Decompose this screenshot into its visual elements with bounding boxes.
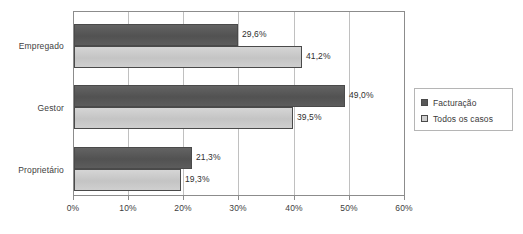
data-label-proprietario-todos-os-casos: 19,3% (185, 174, 210, 184)
data-label-proprietario-facturacao: 21,3% (196, 152, 221, 162)
x-axis-label-30: 30% (229, 203, 246, 213)
x-axis-label-50: 50% (340, 203, 357, 213)
legend-label-facturacao: Facturação (433, 98, 477, 108)
x-axis-label-0: 0% (67, 203, 80, 213)
data-label-empregado-facturacao: 29,6% (242, 29, 267, 39)
legend-item-todos-os-casos: Todos os casos (421, 111, 512, 126)
y-axis-label-empregado: Empregado (0, 41, 64, 51)
legend: Facturação Todos os casos (414, 88, 513, 131)
bar-gestor-todos-os-casos (74, 107, 293, 129)
x-axis-tick-50 (349, 196, 350, 200)
x-axis-tick-60 (404, 196, 405, 200)
data-label-gestor-facturacao: 49,0% (349, 90, 374, 100)
x-axis-label-40: 40% (285, 203, 302, 213)
x-axis-tick-40 (294, 196, 295, 200)
x-axis-tick-0 (73, 196, 74, 200)
bar-empregado-facturacao (74, 24, 238, 46)
x-axis-label-20: 20% (174, 203, 191, 213)
x-axis-tick-30 (238, 196, 239, 200)
bar-gestor-facturacao (74, 85, 345, 107)
data-label-gestor-todos-os-casos: 39,5% (297, 112, 322, 122)
y-axis-category-labels: Empregado Gestor Proprietário (0, 11, 68, 196)
x-axis-tick-20 (183, 196, 184, 200)
legend-swatch-icon-facturacao (421, 99, 428, 106)
legend-swatch-icon-todos-os-casos (421, 115, 428, 122)
y-axis-label-proprietario: Proprietário (0, 165, 64, 175)
x-axis-label-10: 10% (119, 203, 136, 213)
x-axis-tick-10 (128, 196, 129, 200)
bar-empregado-todos-os-casos (74, 46, 302, 68)
gridline-50 (349, 12, 350, 195)
data-label-empregado-todos-os-casos: 41,2% (306, 51, 331, 61)
legend-item-facturacao: Facturação (421, 95, 512, 110)
bar-chart: Empregado Gestor Proprietário 29,6% 41,2… (0, 0, 523, 234)
bar-proprietario-todos-os-casos (74, 169, 181, 191)
y-axis-label-gestor: Gestor (0, 103, 64, 113)
legend-label-todos-os-casos: Todos os casos (433, 114, 493, 124)
bar-proprietario-facturacao (74, 147, 192, 169)
x-axis-label-60: 60% (395, 203, 412, 213)
plot-area: 29,6% 41,2% 49,0% 39,5% 21,3% 19,3% (73, 11, 405, 196)
